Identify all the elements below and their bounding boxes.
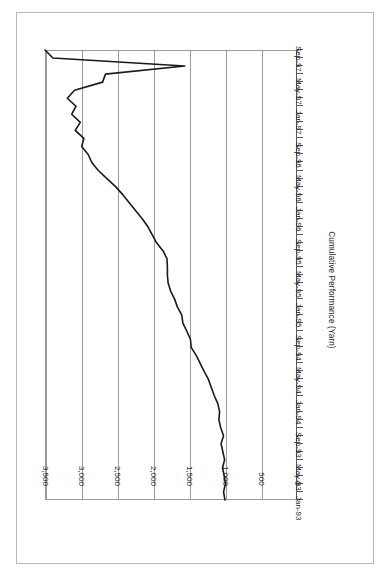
- value-axis-tick-label: 1,000: [220, 466, 229, 486]
- category-axis-tick-label: Sep-96: [294, 142, 303, 168]
- category-axis-tick-label: May-95: [294, 271, 303, 298]
- category-axis-tick-label: Jan-97: [294, 110, 303, 134]
- category-axis-tick-label: Sep-93: [294, 432, 303, 458]
- value-axis-title: Cumulative Performance (Yarn): [327, 32, 336, 548]
- value-axis-tick-label: 3,000: [76, 466, 85, 486]
- value-axis-tick-label: 500: [256, 473, 265, 486]
- category-axis-tick: [297, 137, 303, 138]
- category-axis-tick: [297, 73, 303, 74]
- value-axis-tick-label: 2,000: [148, 466, 157, 486]
- category-axis-tick-label: May-97: [294, 78, 303, 105]
- category-axis-tick-label: Sep-95: [294, 239, 303, 265]
- category-axis-tick-label: May-94: [294, 367, 303, 394]
- value-axis-tick-label: 3,500: [40, 466, 49, 486]
- category-axis-tick: [297, 362, 303, 363]
- category-axis-tick: [297, 459, 303, 460]
- category-axis-tick-label: Jan-95: [294, 303, 303, 327]
- rotated-chart-stage: Cumulative Performance (Yarn) 05001,0001…: [31, 32, 361, 548]
- category-axis-tick-label: Jan-93: [294, 496, 303, 520]
- category-axis-tick: [297, 266, 303, 267]
- category-axis-tick: [297, 298, 303, 299]
- series-line-cumulative-performance: [45, 50, 297, 500]
- category-axis-tick: [297, 395, 303, 396]
- category-axis-tick-label: May-93: [294, 464, 303, 491]
- category-axis-tick: [297, 491, 303, 492]
- category-axis-tick: [297, 234, 303, 235]
- value-axis-tick-label: 2,500: [112, 466, 121, 486]
- category-axis-tick-label: Sep-94: [294, 335, 303, 361]
- category-axis-tick-label: Jan-94: [294, 400, 303, 424]
- value-axis-tick-label: 1,500: [184, 466, 193, 486]
- category-axis-tick-label: Sep-97: [294, 46, 303, 72]
- category-axis-tick: [297, 170, 303, 171]
- category-axis-tick-label: May-96: [294, 175, 303, 202]
- chart-page: Cumulative Performance (Yarn) 05001,0001…: [0, 0, 391, 580]
- category-axis-tick: [297, 330, 303, 331]
- category-axis-tick-label: Jan-96: [294, 207, 303, 231]
- category-axis-tick: [297, 105, 303, 106]
- rotated-chart-stage-wrapper: Cumulative Performance (Yarn) 05001,0001…: [0, 0, 391, 580]
- category-axis-tick: [297, 427, 303, 428]
